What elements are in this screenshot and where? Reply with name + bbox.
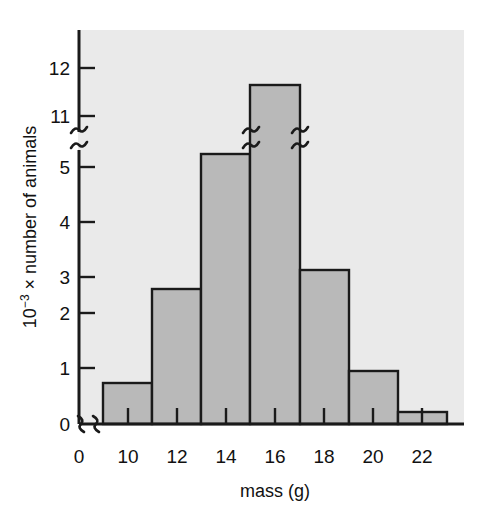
y-tick-label-1: 1 xyxy=(59,358,70,379)
y-tick-label-3: 3 xyxy=(59,267,70,288)
y-tick-label-5: 5 xyxy=(59,157,70,178)
x-tick-label-0: 0 xyxy=(74,446,85,467)
histogram-figure: 12 11 5 4 3 2 1 0 0 10 12 14 16 18 xyxy=(0,0,492,519)
y-tick-label-11: 11 xyxy=(50,106,70,127)
y-axis-title-exponent: −3 xyxy=(18,294,32,308)
x-axis-title: mass (g) xyxy=(240,481,310,501)
x-tick-label-12: 12 xyxy=(166,446,187,467)
bar-13-15[interactable] xyxy=(201,154,250,424)
x-tick-label-16: 16 xyxy=(264,446,285,467)
x-tick-label-14: 14 xyxy=(215,446,237,467)
y-tick-label-4: 4 xyxy=(59,212,70,233)
x-tick-label-18: 18 xyxy=(313,446,334,467)
bar-11-13[interactable] xyxy=(152,289,201,424)
bar-15-17[interactable] xyxy=(250,85,300,424)
chart-canvas: 12 11 5 4 3 2 1 0 0 10 12 14 16 18 xyxy=(0,0,492,519)
x-tick-label-10: 10 xyxy=(117,446,138,467)
y-axis-title-suffix: × number of animals xyxy=(20,126,40,295)
y-axis-title-prefix: 10 xyxy=(20,308,40,328)
x-tick-label-20: 20 xyxy=(362,446,383,467)
bar-17-19[interactable] xyxy=(300,270,349,424)
y-tick-label-0: 0 xyxy=(59,414,70,435)
y-tick-label-2: 2 xyxy=(59,303,70,324)
y-tick-label-12: 12 xyxy=(49,58,70,79)
x-tick-label-22: 22 xyxy=(411,446,432,467)
